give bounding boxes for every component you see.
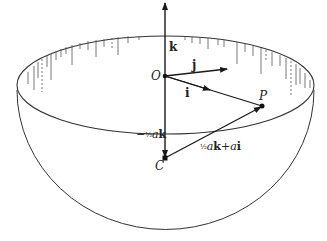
cp-vector-label: ½ak+ai [200, 140, 241, 153]
j-label: j [191, 58, 196, 72]
p-label: P [258, 89, 268, 103]
point-o [163, 74, 168, 79]
i-label: i [185, 86, 190, 100]
point-p [260, 104, 265, 109]
k-label: k [169, 40, 178, 54]
oc-vector-label: −½ak [136, 128, 167, 141]
o-label: O [151, 69, 161, 83]
hemisphere-diagram: k j i O C P −½ak ½ak+ai [0, 0, 327, 241]
c-label: C [155, 159, 164, 173]
